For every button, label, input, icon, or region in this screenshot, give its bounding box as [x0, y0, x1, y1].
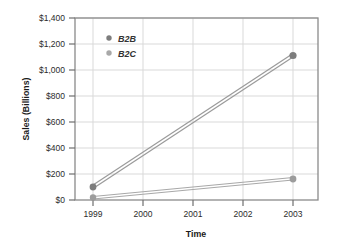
y-tick-label: $1,400	[39, 13, 65, 23]
x-tick-label: 2002	[234, 209, 253, 219]
data-point-b2c-2003	[290, 176, 297, 183]
y-tick-label: $200	[46, 169, 65, 179]
chart-canvas: $1,400 $1,200 $1,000 $800 $600 $400 $200…	[0, 0, 345, 248]
y-axis-title: Sales (Billions)	[21, 77, 31, 140]
legend-label-b2c: B2C	[118, 49, 137, 59]
y-tick-label: $1,000	[39, 65, 65, 75]
y-tick-label: $1,200	[39, 39, 65, 49]
data-point-b2b-1999	[90, 184, 97, 191]
y-tick-label: $0	[56, 195, 66, 205]
data-point-b2c-1999	[90, 194, 96, 200]
x-tick-label: 2003	[284, 209, 303, 219]
legend-marker-b2c-icon	[106, 50, 111, 55]
x-tick-label: 2001	[184, 209, 203, 219]
legend-label-b2b: B2B	[118, 34, 137, 44]
x-tick-label: 2000	[134, 209, 153, 219]
legend-marker-b2b-icon	[106, 35, 111, 40]
line-chart: $1,400 $1,200 $1,000 $800 $600 $400 $200…	[0, 0, 345, 248]
y-tick-label: $400	[46, 143, 65, 153]
y-tick-label: $800	[46, 91, 65, 101]
data-point-b2b-2003	[289, 52, 296, 59]
x-tick-label: 1999	[84, 209, 103, 219]
x-axis-title: Time	[186, 229, 206, 239]
y-tick-label: $600	[46, 117, 65, 127]
